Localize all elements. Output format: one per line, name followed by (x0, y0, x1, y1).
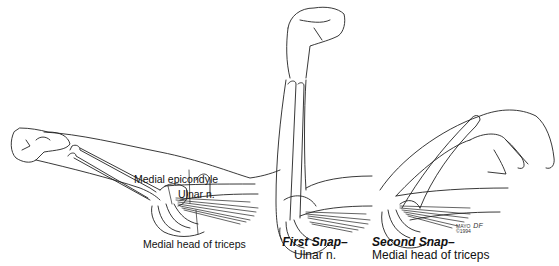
signature-initials: DF (473, 222, 482, 229)
caption-second-snap: Second Snap– Medial head of triceps (372, 236, 522, 262)
caption-first-snap-subtitle: Ulnar n. (275, 249, 355, 262)
artist-signature: MAYODF ©1994 (456, 223, 483, 234)
caption-second-snap-subtitle: Medial head of triceps (372, 249, 522, 262)
signature-date: ©1994 (456, 228, 471, 234)
label-medial-head-of-triceps: Medial head of triceps (143, 238, 246, 250)
first-snap-drawing (276, 7, 372, 254)
caption-first-snap: First Snap– Ulnar n. (275, 236, 355, 262)
label-medial-epicondyle: Medial epicondyle (134, 173, 218, 185)
label-ulnar-nerve: Ulnar n. (178, 188, 215, 200)
